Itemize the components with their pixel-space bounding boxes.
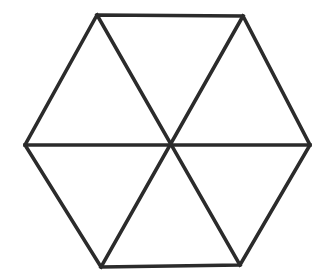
hexagon-diagram	[0, 0, 324, 278]
figure-canvas	[0, 0, 324, 278]
